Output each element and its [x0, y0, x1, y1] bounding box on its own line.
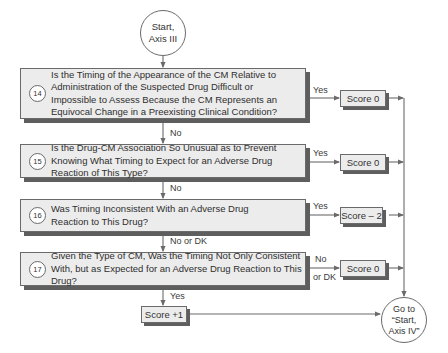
no-label: No [315, 254, 327, 264]
score-box: Score 0 [340, 154, 386, 171]
question-number-badge: 16 [29, 207, 46, 224]
question-text: Is the Timing of the Appearance of the C… [51, 69, 291, 119]
end-node: Go to “Start, Axis IV” [381, 297, 427, 343]
final-score-box: Score +1 [141, 306, 187, 323]
yes-label: Yes [313, 148, 328, 158]
question-16-box: 16 Was Timing Inconsistent With an Adver… [20, 199, 306, 232]
question-number-badge: 14 [29, 85, 46, 102]
question-15-box: 15 Is the Drug-CM Association So Unusual… [20, 144, 306, 178]
or-dk-label: or DK [313, 272, 336, 282]
question-text: Given the Type of CM, Was the Timing Not… [51, 250, 305, 288]
question-text: Was Timing Inconsistent With an Adverse … [51, 203, 281, 228]
no-label: No [170, 183, 182, 193]
no-or-dk-label: No or DK [170, 236, 207, 246]
score-box: Score – 2 [340, 207, 383, 224]
score-box: Score 0 [340, 90, 386, 107]
yes-label: Yes [170, 291, 185, 301]
no-label: No [170, 128, 182, 138]
start-node: Start, Axis III [140, 10, 186, 56]
question-14-box: 14 Is the Timing of the Appearance of th… [20, 68, 306, 119]
score-box: Score 0 [340, 260, 386, 277]
question-number-badge: 17 [29, 261, 46, 278]
yes-label: Yes [313, 201, 328, 211]
yes-label: Yes [313, 85, 328, 95]
question-text: Is the Drug-CM Association So Unusual as… [51, 142, 305, 180]
question-17-box: 17 Given the Type of CM, Was the Timing … [20, 252, 306, 286]
question-number-badge: 15 [29, 153, 46, 170]
